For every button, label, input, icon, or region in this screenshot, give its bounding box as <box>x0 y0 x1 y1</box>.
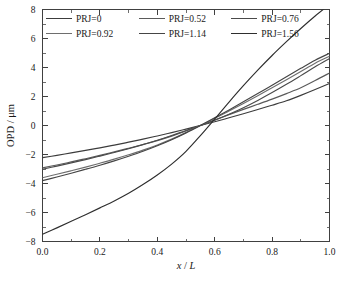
legend-entry-2[interactable]: PRJ=0.76 <box>231 11 324 26</box>
legend-entry-1[interactable]: PRJ=0.52 <box>139 11 232 26</box>
legend-entry-4[interactable]: PRJ=1.14 <box>139 26 232 41</box>
legend-label: PRJ=0.92 <box>76 29 113 39</box>
x-axis-title: x / L <box>176 260 196 271</box>
y-tick-label: 2 <box>31 92 36 102</box>
series-line-4 <box>43 53 330 180</box>
x-tick-label: 0.0 <box>37 247 49 257</box>
y-tick-label: 0 <box>31 121 36 131</box>
x-tick-label: 1.0 <box>324 247 336 257</box>
chart-plot-svg: 0.00.20.40.60.81.086420−2−4−6−8 x / LOPD… <box>0 0 338 282</box>
plot-frame <box>43 10 330 242</box>
legend-entry-0[interactable]: PRJ=0 <box>46 11 139 26</box>
legend-swatch-icon <box>139 18 165 19</box>
y-tick-label: −6 <box>25 208 35 218</box>
x-tick-label: 0.8 <box>266 247 278 257</box>
legend-swatch-icon <box>231 18 257 19</box>
legend-swatch-icon <box>231 33 257 34</box>
x-tick-label: 0.6 <box>209 247 221 257</box>
y-tick-label: −4 <box>25 179 35 189</box>
chart-figure: 0.00.20.40.60.81.086420−2−4−6−8 x / LOPD… <box>0 0 338 282</box>
x-tick-label: 0.4 <box>151 247 163 257</box>
legend-label: PRJ=0 <box>76 14 101 24</box>
legend-swatch-icon <box>46 33 72 34</box>
legend-entry-3[interactable]: PRJ=0.92 <box>46 26 139 41</box>
legend-label: PRJ=0.76 <box>261 14 298 24</box>
legend-swatch-icon <box>139 33 165 34</box>
legend-label: PRJ=0.52 <box>169 14 206 24</box>
ticks-group <box>43 10 330 242</box>
x-tick-label: 0.2 <box>94 247 106 257</box>
y-tick-label: 4 <box>31 63 36 73</box>
chart-legend: PRJ=0PRJ=0.52PRJ=0.76PRJ=0.92PRJ=1.14PRJ… <box>46 11 324 41</box>
y-axis-title: OPD / μm <box>5 104 16 147</box>
legend-swatch-icon <box>46 18 72 19</box>
y-tick-label: 8 <box>31 5 36 15</box>
y-tick-label: −8 <box>25 237 35 247</box>
axes-group <box>43 10 330 242</box>
series-line-1 <box>43 73 330 168</box>
series-line-0 <box>43 83 330 157</box>
legend-label: PRJ=1.14 <box>169 29 206 39</box>
legend-entry-5[interactable]: PRJ=1.56 <box>231 26 324 41</box>
y-tick-label: −2 <box>25 150 35 160</box>
y-tick-label: 6 <box>31 34 36 44</box>
series-line-2 <box>43 59 330 170</box>
legend-label: PRJ=1.56 <box>261 29 298 39</box>
